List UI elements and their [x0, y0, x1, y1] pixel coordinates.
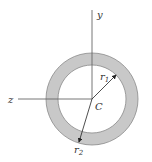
y-axis-label: y: [96, 9, 103, 20]
r2-label: r2: [74, 144, 84, 157]
cross-section-diagram: y z C r1 r2: [0, 0, 152, 162]
z-axis-label: z: [7, 94, 14, 105]
centroid-label: C: [95, 101, 103, 112]
r1-label: r1: [100, 71, 109, 84]
